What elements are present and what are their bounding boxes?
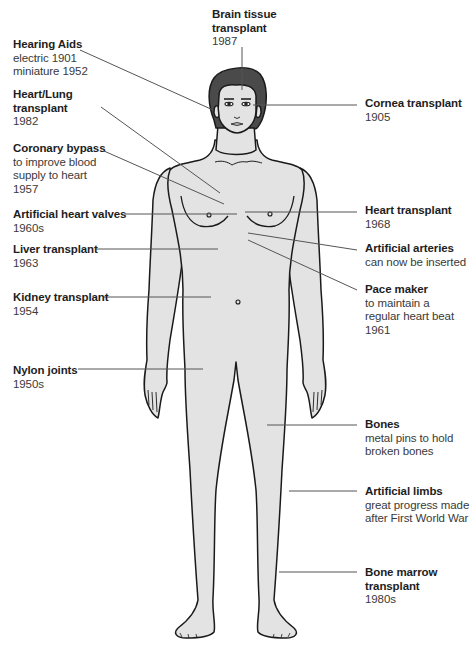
label-desc: 1982 — [13, 115, 73, 129]
label-cornea: Cornea transplant 1905 — [365, 97, 462, 124]
label-desc: 1950s — [13, 378, 78, 392]
label-title: Artificial arteries — [365, 242, 466, 256]
label-hearing-aids: Hearing Aids electric 1901 miniature 195… — [13, 38, 88, 79]
label-desc: 1961 — [365, 324, 454, 338]
label-title: Cornea transplant — [365, 97, 462, 111]
label-brain-tissue: Brain tissue transplant 1987 — [212, 8, 277, 49]
label-nylon-joints: Nylon joints 1950s — [13, 364, 78, 391]
label-liver: Liver transplant 1963 — [13, 243, 98, 270]
label-pace-maker: Pace maker to maintain a regular heart b… — [365, 283, 454, 337]
label-artificial-arteries: Artificial arteries can now be inserted — [365, 242, 466, 269]
label-desc: 1905 — [365, 111, 462, 125]
label-desc: can now be inserted — [365, 256, 466, 270]
torso-legs — [168, 140, 304, 638]
label-desc: broken bones — [365, 445, 453, 459]
label-title: Artificial heart valves — [13, 208, 126, 222]
label-desc: great progress made — [365, 499, 469, 513]
label-title: transplant — [212, 22, 277, 36]
label-desc: 1987 — [212, 35, 277, 49]
label-title: Heart transplant — [365, 204, 452, 218]
label-title: Pace maker — [365, 283, 454, 297]
label-desc: 1960s — [13, 222, 126, 236]
label-desc: 1957 — [13, 183, 105, 197]
label-bone-marrow: Bone marrow transplant 1980s — [365, 566, 437, 607]
label-title: transplant — [13, 102, 73, 116]
label-desc: metal pins to hold — [365, 432, 453, 446]
leader-line-hearing-aids — [80, 50, 213, 110]
label-desc: to maintain a — [365, 297, 454, 311]
label-coronary-bypass: Coronary bypass to improve blood supply … — [13, 142, 105, 196]
label-title: Coronary bypass — [13, 142, 105, 156]
label-desc: 1968 — [365, 218, 452, 232]
mouth — [231, 123, 243, 126]
label-bones: Bones metal pins to hold broken bones — [365, 418, 453, 459]
label-title: transplant — [365, 580, 437, 594]
label-title: Artificial limbs — [365, 485, 469, 499]
label-heart-lung: Heart/Lung transplant 1982 — [13, 88, 73, 129]
label-title: Kidney transplant — [13, 291, 108, 305]
label-title: Bones — [365, 418, 453, 432]
label-desc: after First World War — [365, 512, 469, 526]
label-desc: miniature 1952 — [13, 65, 88, 79]
label-heart-valves: Artificial heart valves 1960s — [13, 208, 126, 235]
label-title: Hearing Aids — [13, 38, 88, 52]
label-desc: 1963 — [13, 257, 98, 271]
label-heart-transplant: Heart transplant 1968 — [365, 204, 452, 231]
label-desc: 1980s — [365, 593, 437, 607]
label-title: Heart/Lung — [13, 88, 73, 102]
label-desc: supply to heart — [13, 169, 105, 183]
label-desc: 1954 — [13, 305, 108, 319]
left-ear — [214, 106, 219, 118]
label-desc: regular heart beat — [365, 310, 454, 324]
label-title: Nylon joints — [13, 364, 78, 378]
label-title: Brain tissue — [212, 8, 277, 22]
body-outline — [144, 68, 326, 638]
label-desc: electric 1901 — [13, 52, 88, 66]
label-kidney: Kidney transplant 1954 — [13, 291, 108, 318]
label-desc: to improve blood — [13, 156, 105, 170]
label-title: Bone marrow — [365, 566, 437, 580]
right-ear — [256, 106, 261, 118]
label-artificial-limbs: Artificial limbs great progress made aft… — [365, 485, 469, 526]
label-title: Liver transplant — [13, 243, 98, 257]
